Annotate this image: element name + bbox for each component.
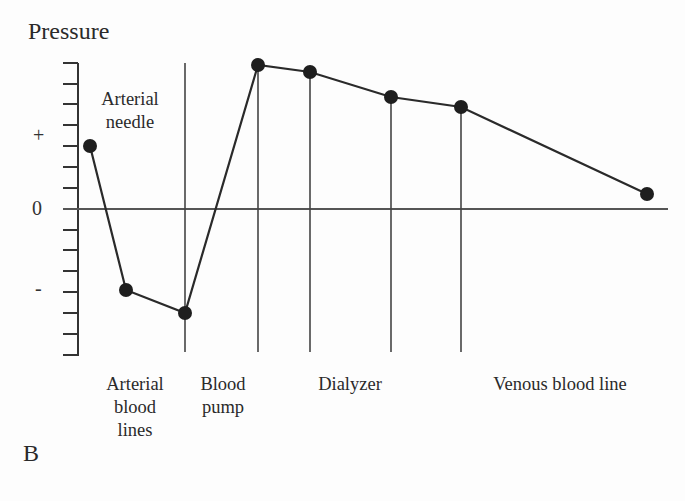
annotation-line-2: needle xyxy=(90,111,170,134)
segment-dividers xyxy=(185,63,461,352)
segment-label-dialyzer: Dialyzer xyxy=(300,373,400,396)
segment-label-venous-blood-line: Venous blood line xyxy=(465,373,655,396)
annotation-arterial-needle: Arterial needle xyxy=(90,88,170,134)
segment-label-arterial-blood-lines: Arterial blood lines xyxy=(95,373,175,442)
panel-label: B xyxy=(23,440,39,467)
segment-label-line: blood xyxy=(95,396,175,419)
segment-label-blood-pump: Blood pump xyxy=(188,373,258,419)
segment-label-line: Arterial xyxy=(95,373,175,396)
segment-label-line: Venous blood line xyxy=(465,373,655,396)
pressure-line xyxy=(90,65,647,313)
annotation-line-1: Arterial xyxy=(90,88,170,111)
segment-label-line: Dialyzer xyxy=(300,373,400,396)
segment-label-line: Blood xyxy=(188,373,258,396)
segment-label-line: lines xyxy=(95,419,175,442)
segment-label-line: pump xyxy=(188,396,258,419)
pressure-chart-figure: Pressure + 0 - xyxy=(0,0,685,501)
